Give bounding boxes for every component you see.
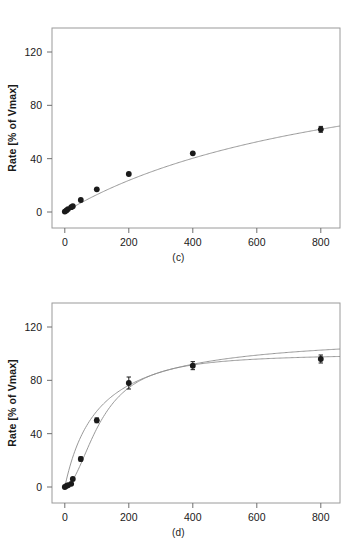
data-point: [78, 197, 84, 203]
y-axis-title: Rate [% of Vmax]: [6, 359, 18, 446]
data-point: [190, 150, 196, 156]
data-point: [318, 356, 324, 362]
x-tick-label: 800: [312, 236, 330, 248]
x-tick-label: 0: [62, 236, 68, 248]
y-tick-label: 120: [24, 321, 42, 333]
chart-d: 020040060080004080120Substrate concentra…: [0, 275, 357, 523]
y-tick-label: 80: [30, 99, 42, 111]
data-point: [190, 363, 196, 369]
y-tick-label: 0: [36, 206, 42, 218]
panel-c: 020040060080004080120Substrate concentra…: [0, 0, 357, 275]
x-tick-label: 400: [184, 511, 202, 523]
x-tick-label: 200: [120, 236, 138, 248]
panel-d-caption: (d): [0, 527, 357, 538]
x-tick-label: 0: [62, 511, 68, 523]
y-tick-label: 0: [36, 481, 42, 493]
plot-frame: [52, 303, 340, 503]
data-point: [70, 476, 76, 482]
data-point: [94, 417, 100, 423]
data-point: [70, 203, 76, 209]
x-tick-label: 600: [248, 511, 266, 523]
y-tick-label: 40: [30, 428, 42, 440]
y-axis-title: Rate [% of Vmax]: [6, 84, 18, 171]
panel-d: 020040060080004080120Substrate concentra…: [0, 275, 357, 550]
data-point: [126, 171, 132, 177]
y-tick-label: 80: [30, 374, 42, 386]
chart-c: 020040060080004080120Substrate concentra…: [0, 0, 357, 248]
data-point: [318, 126, 324, 132]
data-point: [78, 456, 84, 462]
x-tick-label: 400: [184, 236, 202, 248]
plot-frame: [52, 28, 340, 228]
y-tick-label: 40: [30, 153, 42, 165]
data-point: [126, 380, 132, 386]
data-point: [94, 186, 100, 192]
y-tick-label: 120: [24, 46, 42, 58]
x-tick-label: 200: [120, 511, 138, 523]
panel-c-caption: (c): [0, 252, 357, 263]
x-tick-label: 800: [312, 511, 330, 523]
x-tick-label: 600: [248, 236, 266, 248]
